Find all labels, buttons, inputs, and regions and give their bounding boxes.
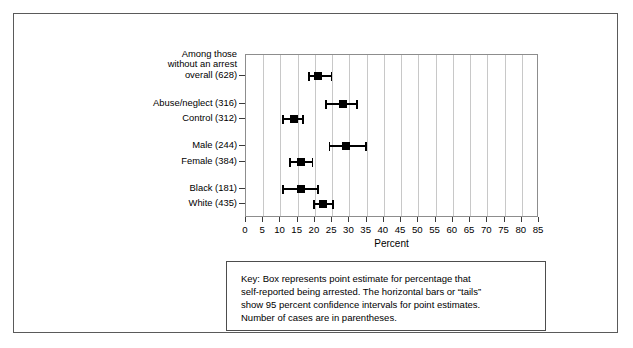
key-text-line: show 95 percent confidence intervals for…	[241, 298, 545, 311]
gridline-75	[505, 55, 506, 216]
gridline-40	[384, 55, 385, 216]
x-axis-tick-0	[245, 217, 246, 222]
gridline-80	[522, 55, 523, 216]
gridline-50	[418, 55, 419, 216]
x-axis-tick-35	[366, 217, 367, 222]
y-axis-label-row-0: Among thosewithout an arrestoverall (628…	[168, 49, 237, 81]
point-estimate-box-row-1	[339, 100, 347, 108]
point-estimate-box-row-4	[297, 158, 305, 166]
gridline-30	[349, 55, 350, 216]
gridline-65	[470, 55, 471, 216]
x-axis-tick-65	[469, 217, 470, 222]
key-text-line: Number of cases are in parentheses.	[241, 311, 545, 324]
gridline-45	[401, 55, 402, 216]
confidence-interval-cap-row-1	[325, 100, 327, 109]
gridline-60	[453, 55, 454, 216]
x-axis-tick-40	[383, 217, 384, 222]
x-axis-tick-60	[452, 217, 453, 222]
gridline-5	[263, 55, 264, 216]
y-axis-label-line: White (435)	[189, 198, 237, 209]
y-axis-label-group: Among thosewithout an arrestoverall (628…	[74, 14, 237, 348]
point-estimate-box-row-0	[314, 72, 322, 80]
key-legend-box: Key: Box represents point estimate for p…	[226, 261, 546, 331]
x-axis-tick-20	[314, 217, 315, 222]
x-axis-tick-5	[262, 217, 263, 222]
confidence-interval-cap-row-0	[308, 72, 310, 81]
confidence-interval-cap-row-3	[329, 142, 331, 151]
confidence-interval-cap-row-6	[332, 200, 334, 209]
x-axis-tick-label-85: 85	[523, 224, 553, 235]
plot-area	[245, 54, 538, 217]
x-axis-tick-85	[538, 217, 539, 222]
y-axis-label-line: overall (628)	[168, 70, 237, 81]
confidence-interval-cap-row-3	[365, 142, 367, 151]
y-axis-label-line: Female (384)	[181, 156, 237, 167]
key-text-line: self-reported being arrested. The horizo…	[241, 285, 545, 298]
y-axis-label-row-5: Black (181)	[190, 183, 237, 194]
confidence-interval-cap-row-2	[302, 115, 304, 124]
x-axis-tick-75	[504, 217, 505, 222]
y-axis-label-row-6: White (435)	[189, 198, 237, 209]
x-axis-tick-55	[435, 217, 436, 222]
y-axis-label-row-4: Female (384)	[181, 156, 237, 167]
y-axis-label-row-1: Abuse/neglect (316)	[153, 98, 237, 109]
gridline-70	[487, 55, 488, 216]
gridline-35	[367, 55, 368, 216]
confidence-interval-cap-row-6	[313, 200, 315, 209]
x-axis-tick-80	[521, 217, 522, 222]
x-axis-tick-25	[331, 217, 332, 222]
x-axis-tick-10	[279, 217, 280, 222]
point-estimate-box-row-2	[290, 115, 298, 123]
x-axis-tick-15	[297, 217, 298, 222]
confidence-interval-cap-row-5	[317, 185, 319, 194]
point-estimate-box-row-3	[342, 142, 350, 150]
y-axis-label-line: Control (312)	[182, 113, 237, 124]
point-estimate-box-row-6	[319, 200, 327, 208]
confidence-interval-cap-row-5	[282, 185, 284, 194]
key-text-line: Key: Box represents point estimate for p…	[241, 272, 545, 285]
figure-frame: Among thosewithout an arrestoverall (628…	[13, 13, 618, 333]
x-axis-tick-45	[400, 217, 401, 222]
point-estimate-box-row-5	[297, 185, 305, 193]
x-axis-title: Percent	[245, 238, 538, 249]
x-axis-tick-50	[417, 217, 418, 222]
x-axis-tick-70	[486, 217, 487, 222]
y-axis-label-row-3: Male (244)	[192, 140, 237, 151]
y-axis-label-line: Black (181)	[190, 183, 237, 194]
confidence-interval-cap-row-4	[289, 158, 291, 167]
gridline-55	[436, 55, 437, 216]
gridline-25	[332, 55, 333, 216]
y-axis-label-line: Male (244)	[192, 140, 237, 151]
confidence-interval-cap-row-0	[331, 72, 333, 81]
confidence-interval-cap-row-4	[312, 158, 314, 167]
confidence-interval-cap-row-2	[282, 115, 284, 124]
x-axis-tick-30	[348, 217, 349, 222]
y-axis-label-row-2: Control (312)	[182, 113, 237, 124]
y-axis-label-line: Abuse/neglect (316)	[153, 98, 237, 109]
confidence-interval-cap-row-1	[356, 100, 358, 109]
